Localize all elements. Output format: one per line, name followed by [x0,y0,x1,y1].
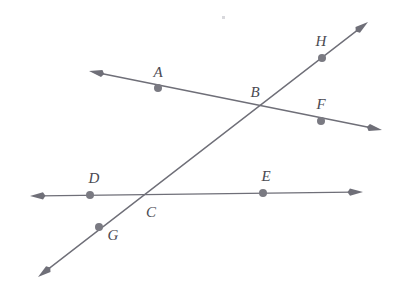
line-gh-arrow-start [38,266,50,277]
line-gh-segment [46,28,360,271]
point-dot-f [317,117,325,125]
point-label-f: F [316,97,325,112]
point-label-d: D [89,171,100,186]
geometry-diagram: A B C D E F G H [0,0,407,286]
line-de [30,189,363,200]
point-dot-d [86,191,94,199]
point-label-h: H [316,34,327,49]
line-gh-arrow-end [356,22,368,33]
line-de-arrow-start [30,192,45,199]
line-af-arrow-end [367,124,382,131]
point-dot-h [318,54,326,62]
point-label-e: E [261,169,270,184]
scan-speck [222,16,225,19]
line-af-segment [99,73,372,128]
point-label-g: G [108,228,119,243]
point-label-a: A [153,65,162,80]
point-label-c: C [146,205,156,220]
point-dot-a [154,84,162,92]
line-gh [38,22,368,277]
line-af-arrow-start [89,70,104,77]
line-de-arrow-end [348,189,363,196]
point-dot-g [95,223,103,231]
point-label-b: B [250,85,259,100]
line-af [89,70,382,131]
point-dot-e [259,189,267,197]
geometry-canvas [0,0,407,286]
